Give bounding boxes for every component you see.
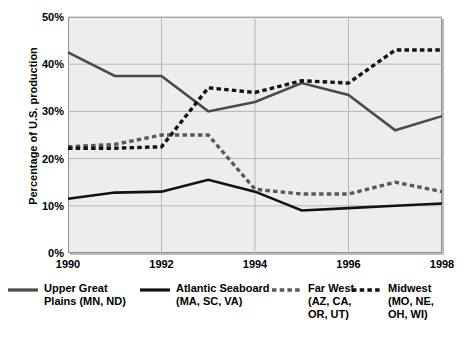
dashed-line-icon <box>272 283 302 297</box>
dashed-line-icon <box>352 283 382 297</box>
legend-item[interactable]: Midwest (MO, NE, OH, WI) <box>352 282 434 321</box>
x-tick-label: 1990 <box>56 258 80 270</box>
x-tick-label: 1996 <box>336 258 360 270</box>
legend-label: Atlantic Seaboard (MA, SC, VA) <box>176 282 270 308</box>
x-tick-label: 1998 <box>430 258 454 270</box>
legend-item[interactable]: Atlantic Seaboard (MA, SC, VA) <box>140 282 270 308</box>
legend-label: Midwest (MO, NE, OH, WI) <box>388 282 434 321</box>
y-tick-label: 50% <box>24 11 64 23</box>
chart-legend: Upper Great Plains (MN, ND)Atlantic Seab… <box>0 282 464 340</box>
chart-container: Percentage of U.S. production 50%40%30%2… <box>0 0 464 340</box>
solid-line-icon <box>140 283 170 297</box>
series-layer <box>68 17 442 253</box>
legend-label: Far West (AZ, CA, OR, UT) <box>308 282 354 321</box>
legend-label: Upper Great Plains (MN, ND) <box>44 282 126 308</box>
y-tick-label: 40% <box>24 58 64 70</box>
y-tick-label: 30% <box>24 105 64 117</box>
x-tick-label: 1992 <box>149 258 173 270</box>
x-tick-label: 1994 <box>243 258 267 270</box>
solid-line-icon <box>8 283 38 297</box>
legend-item[interactable]: Far West (AZ, CA, OR, UT) <box>272 282 354 321</box>
legend-item[interactable]: Upper Great Plains (MN, ND) <box>8 282 126 308</box>
y-tick-label: 20% <box>24 153 64 165</box>
y-tick-label: 10% <box>24 200 64 212</box>
